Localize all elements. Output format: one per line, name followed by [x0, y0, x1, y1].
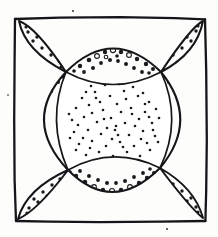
petal-bottom-left-outline [18, 170, 68, 219]
center-backing [56, 72, 172, 170]
frame-bottom-line [16, 221, 205, 222]
frame-top-line [15, 17, 205, 19]
figure-canvas: Quilt block line drawing [0, 0, 218, 237]
band-top-dots [72, 47, 155, 74]
petal-bottom-right-outline [160, 168, 203, 218]
petal-top-left-dots [24, 25, 62, 68]
petal-top-left-region [24, 25, 62, 68]
frame-right-line [205, 19, 207, 221]
band-top-region [72, 47, 155, 74]
frame-left-line [14, 19, 16, 221]
region-backings [56, 72, 172, 170]
quilt-block-drawing: Quilt block line drawing [0, 0, 218, 237]
